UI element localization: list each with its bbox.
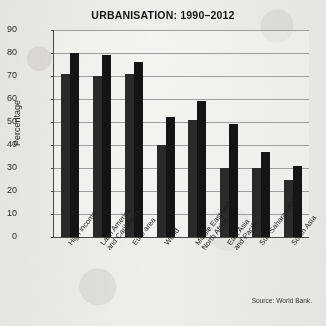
y-axis-tick-mark bbox=[51, 76, 55, 77]
y-axis-tick-mark bbox=[51, 30, 55, 31]
y-axis-tick-mark bbox=[51, 237, 55, 238]
chart-title: URBANISATION: 1990–2012 bbox=[0, 9, 326, 21]
y-axis-tick-mark bbox=[51, 168, 55, 169]
y-axis-tick-label: 50 bbox=[0, 116, 17, 126]
y-axis-tick-label: 70 bbox=[0, 70, 17, 80]
bar-2012 bbox=[166, 117, 175, 237]
y-axis-tick-mark bbox=[51, 99, 55, 100]
bar-2012 bbox=[70, 53, 79, 237]
bar-2012 bbox=[197, 101, 206, 237]
y-axis-tick-mark bbox=[51, 191, 55, 192]
y-axis-tick-label: 10 bbox=[0, 208, 17, 218]
y-axis-tick-label: 20 bbox=[0, 185, 17, 195]
y-axis-tick-label: 90 bbox=[0, 24, 17, 34]
y-axis-tick-label: 0 bbox=[0, 231, 17, 241]
bar-2012 bbox=[102, 55, 111, 237]
y-axis-tick-label: 60 bbox=[0, 93, 17, 103]
bar-2012 bbox=[261, 152, 270, 237]
gridline bbox=[54, 53, 309, 54]
y-axis-tick-label: 80 bbox=[0, 47, 17, 57]
y-axis-tick-label: 40 bbox=[0, 139, 17, 149]
bar-1990 bbox=[61, 74, 70, 237]
chart-figure: URBANISATION: 1990–2012 Percentage 90807… bbox=[0, 0, 326, 326]
y-axis-tick-mark bbox=[51, 53, 55, 54]
y-axis-tick-mark bbox=[51, 122, 55, 123]
bar-1990 bbox=[188, 120, 197, 237]
source-note: Source: World Bank. bbox=[252, 297, 312, 304]
y-axis-tick-mark bbox=[51, 145, 55, 146]
bar-1990 bbox=[157, 145, 166, 237]
plot-area bbox=[53, 30, 309, 238]
gridline bbox=[54, 30, 309, 31]
y-axis-tick-label: 30 bbox=[0, 162, 17, 172]
y-axis-tick-mark bbox=[51, 214, 55, 215]
